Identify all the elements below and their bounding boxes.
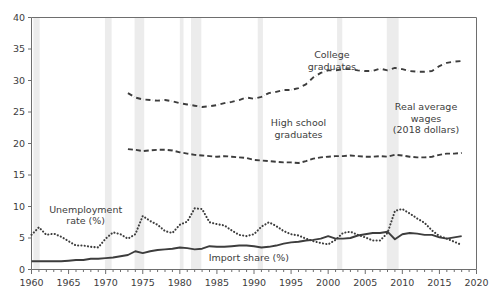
x-tick-label-2015: 2015 (427, 277, 451, 288)
recession-1990-1991 (258, 18, 263, 270)
x-tick-label-2000: 2000 (316, 277, 340, 288)
y-tick-label-5: 5 (19, 232, 25, 243)
x-tick-label-1975: 1975 (131, 277, 155, 288)
chart-container: 0510152025303540 19601965197019751980198… (0, 0, 490, 301)
y-tick-label-30: 30 (13, 75, 25, 86)
real-average-wages-label-line-1: wages (411, 113, 441, 124)
y-tick-label-15: 15 (13, 169, 25, 180)
y-tick-label-20: 20 (13, 138, 25, 149)
college-graduates-label-line-1: graduates (308, 61, 356, 72)
high-school-graduates-label-line-1: graduates (274, 129, 322, 140)
college-graduates-label-line-0: College (314, 49, 350, 60)
x-tick-label-1970: 1970 (94, 277, 118, 288)
real-average-wages-label-line-2: (2018 dollars) (393, 124, 459, 135)
college-graduates-label: Collegegraduates (308, 49, 356, 71)
x-tick-label-1995: 1995 (279, 277, 303, 288)
high-school-graduates-label: High schoolgraduates (271, 117, 326, 140)
unemployment-rate-label-line-0: Unemployment (49, 204, 122, 215)
economic-indicators-line-chart: 0510152025303540 19601965197019751980198… (0, 0, 490, 301)
y-tick-label-35: 35 (13, 43, 25, 54)
unemployment-rate-label-line-1: rate (%) (66, 215, 105, 226)
recession-1980 (180, 18, 184, 270)
high-school-graduates-label-line-0: High school (271, 117, 326, 128)
x-tick-label-1965: 1965 (56, 277, 80, 288)
x-tick-label-2010: 2010 (390, 277, 414, 288)
recession-1969-1970 (105, 18, 112, 270)
y-tick-label-0: 0 (19, 264, 25, 275)
x-tick-label-2005: 2005 (353, 277, 377, 288)
import-share-label-line-0: Import share (%) (209, 252, 289, 263)
x-tick-label-1985: 1985 (205, 277, 229, 288)
x-tick-label-1960: 1960 (19, 277, 43, 288)
import-share-label: Import share (%) (209, 252, 289, 263)
x-tick-label-1980: 1980 (168, 277, 192, 288)
recession-1981-1982 (191, 18, 201, 270)
x-tick-label-1990: 1990 (242, 277, 266, 288)
y-tick-label-40: 40 (13, 12, 25, 23)
y-tick-label-10: 10 (13, 201, 25, 212)
real-average-wages-label-line-0: Real average (395, 101, 458, 112)
y-tick-label-25: 25 (13, 106, 25, 117)
x-tick-label-2020: 2020 (464, 277, 488, 288)
